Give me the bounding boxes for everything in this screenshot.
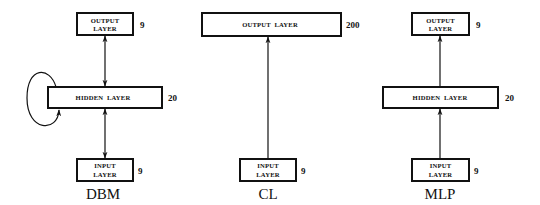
dbm-output-layer: OUTPUT LAYER 9 [77, 13, 145, 35]
mlp-input-units: 9 [474, 166, 479, 176]
cl-input-layer: INPUT LAYER 9 [240, 159, 306, 181]
cl-output-label: OUTPUT LAYER [242, 21, 298, 28]
mlp-output-label-line1: OUTPUT [426, 17, 455, 24]
dbm-input-label-line1: INPUT [94, 162, 116, 169]
cl-output-layer: OUTPUT LAYER 200 [202, 13, 360, 36]
mlp-input-label-line1: INPUT [430, 162, 452, 169]
cl-output-units: 200 [346, 20, 360, 30]
dbm-input-layer: INPUT LAYER 9 [77, 159, 143, 181]
dbm-output-label-line1: OUTPUT [91, 17, 120, 24]
cl-input-units: 9 [301, 166, 306, 176]
cl-network: OUTPUT LAYER 200 INPUT LAYER 9 CL [202, 13, 360, 202]
mlp-output-units: 9 [476, 20, 481, 30]
cl-caption: CL [258, 186, 277, 202]
mlp-input-label-line2: LAYER [429, 171, 453, 178]
mlp-caption: MLP [425, 186, 456, 202]
dbm-input-label-line2: LAYER [93, 171, 117, 178]
cl-input-label-line2: LAYER [256, 171, 280, 178]
dbm-output-units: 9 [140, 20, 145, 30]
dbm-input-units: 9 [138, 166, 143, 176]
mlp-output-label-line2: LAYER [429, 25, 453, 32]
dbm-network: OUTPUT LAYER 9 HIDDEN LAYER 20 INPUT LAY… [27, 13, 178, 202]
dbm-hidden-layer: HIDDEN LAYER 20 [48, 87, 178, 108]
dbm-output-label-line2: LAYER [93, 25, 117, 32]
mlp-input-layer: INPUT LAYER 9 [412, 159, 479, 181]
network-architectures-diagram: OUTPUT LAYER 9 HIDDEN LAYER 20 INPUT LAY… [0, 0, 540, 205]
cl-input-label-line1: INPUT [257, 162, 279, 169]
mlp-hidden-layer: HIDDEN LAYER 20 [383, 87, 515, 108]
dbm-hidden-label: HIDDEN LAYER [76, 94, 131, 101]
dbm-caption: DBM [86, 186, 120, 202]
dbm-hidden-units: 20 [168, 93, 178, 103]
mlp-hidden-label: HIDDEN LAYER [413, 94, 468, 101]
mlp-hidden-units: 20 [505, 93, 515, 103]
mlp-output-layer: OUTPUT LAYER 9 [412, 13, 481, 35]
mlp-network: OUTPUT LAYER 9 HIDDEN LAYER 20 INPUT LAY… [383, 13, 515, 202]
